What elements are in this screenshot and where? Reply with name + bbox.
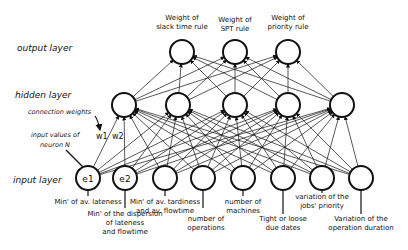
input-label: Tight or loose xyxy=(258,215,307,223)
input-label: and flowtime xyxy=(102,228,148,236)
connection-edge xyxy=(93,116,118,167)
weight-w1-label: w1 xyxy=(96,132,108,141)
output-labels: Weight ofslack time ruleWeight ofSPT rul… xyxy=(156,14,308,33)
hidden-neuron xyxy=(112,93,136,117)
output-neuron xyxy=(223,40,247,64)
connection-edge xyxy=(167,117,176,166)
connection-edge xyxy=(188,112,273,171)
input-neuron-name: e2 xyxy=(119,174,130,184)
connection-edge xyxy=(293,116,317,167)
input-label: operations xyxy=(187,224,225,232)
input-neuron-name: e1 xyxy=(82,174,93,184)
connection-edge xyxy=(291,114,335,168)
input-label: Variation of the xyxy=(334,215,388,223)
output-label: Weight of xyxy=(165,14,199,22)
input-label: due dates xyxy=(266,224,301,232)
input-neuron xyxy=(310,166,334,190)
connection-edge xyxy=(297,60,334,96)
output-neuron xyxy=(170,40,194,64)
output-label: SPT rule xyxy=(221,25,250,33)
connection-edge xyxy=(176,110,331,174)
input-label: Min' of av. lateness xyxy=(54,198,122,206)
connection-edges xyxy=(93,56,358,175)
connection-edge xyxy=(242,115,277,168)
connection-edge xyxy=(190,60,226,96)
hidden-neuron xyxy=(276,93,300,117)
output-label: slack time rule xyxy=(156,23,208,31)
input-label: number of xyxy=(225,198,262,206)
input-neuron xyxy=(349,166,373,190)
connection-edge xyxy=(189,109,350,173)
neural-network-diagram: e1e2 output layer hidden layer input lay… xyxy=(0,0,408,250)
hidden-layer-label: hidden layer xyxy=(15,90,73,100)
connection-edge xyxy=(124,117,125,166)
output-label: priority rule xyxy=(267,23,308,31)
input-labels: Min' of av. latenessMin' of the dispersi… xyxy=(54,193,393,236)
output-label: Weight of xyxy=(271,14,305,22)
input-neuron xyxy=(271,166,295,190)
input-label: Min' of av. tardiness xyxy=(130,198,200,206)
connection-edge xyxy=(325,117,339,167)
output-layer-label: output layer xyxy=(17,43,73,53)
weight-w2-label: w2 xyxy=(112,132,124,141)
input-neuron xyxy=(231,166,255,190)
input-label: machines xyxy=(226,207,260,215)
connection-edge xyxy=(130,115,159,167)
input-label: operation duration xyxy=(328,224,393,232)
input-label: jobs' priority xyxy=(299,202,344,210)
input-label: number of xyxy=(188,215,225,223)
input-values-label-2: neuron N xyxy=(40,141,70,149)
input-neuron xyxy=(191,166,215,190)
input-label: of lateness xyxy=(106,219,145,227)
output-label: Weight of xyxy=(218,16,252,24)
connection-edge xyxy=(99,110,225,172)
input-layer-label: input layer xyxy=(13,175,63,185)
connection-edge xyxy=(135,110,272,173)
input-label: and av. flowtime xyxy=(136,207,194,215)
hidden-neuron xyxy=(166,93,190,117)
output-neuron xyxy=(276,40,300,64)
connection-weights-label: connection weights xyxy=(28,108,92,116)
input-label: variation of the xyxy=(295,193,349,201)
connection-edge xyxy=(133,113,194,170)
connection-edge xyxy=(345,117,358,167)
hidden-neuron xyxy=(330,93,354,117)
input-neuron xyxy=(153,166,177,190)
hidden-neuron xyxy=(223,93,247,117)
input-values-label-1: input values of xyxy=(31,131,81,139)
connection-edge xyxy=(193,56,330,101)
